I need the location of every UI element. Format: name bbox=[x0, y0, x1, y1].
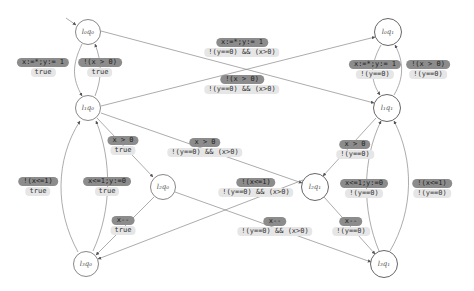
edge-guard: !(y==0) && (x>0) bbox=[237, 227, 312, 236]
edge-label: x--!(y==0) bbox=[332, 217, 370, 236]
edge-action: x > 0 bbox=[189, 138, 220, 147]
initial-edge bbox=[66, 18, 76, 25]
edge-guard: !(y==0) bbox=[356, 70, 394, 79]
edge-action: x:=*;y:= 1 bbox=[17, 58, 69, 67]
edge-action: x > 0 bbox=[107, 136, 138, 145]
state-l1q0[interactable]: l₁q₀ bbox=[75, 95, 101, 121]
edge-label: !(x > 0)!(y==0) && (x>0) bbox=[204, 75, 279, 94]
edge-label: x:=*;y:= 1true bbox=[17, 58, 69, 77]
edge-guard: !(y==0) bbox=[409, 70, 447, 79]
edge-label: x--!(y==0) && (x>0) bbox=[237, 217, 312, 236]
edge-label: x--true bbox=[111, 216, 136, 235]
edge-label: !(x<=1)!(y==0) bbox=[412, 179, 452, 198]
edge-action: !(x > 0) bbox=[78, 58, 122, 67]
edge-action: !(x > 0) bbox=[406, 60, 450, 69]
edge-guard: true bbox=[111, 146, 136, 155]
edge-label: x:=*;y:= 1!(y==0) bbox=[349, 60, 401, 79]
edge-label: !(x<=1)true bbox=[18, 177, 58, 196]
edge-action: x<=1;y:=0 bbox=[340, 179, 388, 188]
edge-action: x:=*;y:= 1 bbox=[216, 38, 268, 47]
edge-label: x<=1;y:=0true bbox=[83, 177, 131, 196]
state-l3q0[interactable]: l₃q₀ bbox=[73, 251, 99, 277]
edge-action: !(x > 0) bbox=[220, 75, 264, 84]
edge-guard: true bbox=[31, 68, 56, 77]
edge-guard: !(y==0) bbox=[336, 150, 374, 159]
edge-label: !(x > 0)!(y==0) bbox=[406, 60, 450, 79]
state-l3q1[interactable]: l₃q₁ bbox=[370, 250, 398, 278]
edge-guard: true bbox=[26, 187, 51, 196]
edge-action: x > 0 bbox=[339, 140, 370, 149]
state-l1q1[interactable]: l₁q₁ bbox=[373, 94, 401, 122]
edge-guard: !(y==0) bbox=[345, 189, 383, 198]
edge-label: x<=1;y:=0!(y==0) bbox=[340, 179, 388, 198]
edge-label: x > 0!(y==0) && (x>0) bbox=[167, 138, 242, 157]
edge-guard: true bbox=[88, 68, 113, 77]
edge-action: !(x<=1) bbox=[18, 177, 58, 186]
edge-action: !(x<=1) bbox=[412, 179, 452, 188]
edge-guard: !(y==0) && (x>0) bbox=[218, 188, 293, 197]
state-l2q1[interactable]: l₂q₁ bbox=[301, 173, 329, 201]
edge-action: x-- bbox=[264, 217, 287, 226]
edge-action: x-- bbox=[112, 216, 135, 225]
edge-action: x:=*;y:= 1 bbox=[349, 60, 401, 69]
edge-action: !(x<=1) bbox=[236, 178, 276, 187]
edge-l3q1-l1q1-b bbox=[390, 121, 409, 251]
state-l2q0[interactable]: l₂q₀ bbox=[150, 174, 176, 200]
edge-guard: !(y==0) && (x>0) bbox=[204, 48, 279, 57]
edge-guard: !(y==0) && (x>0) bbox=[204, 85, 279, 94]
edge-guard: !(y==0) bbox=[332, 227, 370, 236]
edge-label: !(x > 0)true bbox=[78, 58, 122, 77]
edge-guard: true bbox=[95, 187, 120, 196]
edge-guard: true bbox=[111, 226, 136, 235]
edge-guard: !(y==0) && (x>0) bbox=[167, 148, 242, 157]
edge-label: x > 0true bbox=[107, 136, 138, 155]
edge-action: x-- bbox=[340, 217, 363, 226]
edge-guard: !(y==0) bbox=[413, 189, 451, 198]
state-l0q0[interactable]: l₀q₀ bbox=[75, 19, 101, 45]
edge-action: x<=1;y:=0 bbox=[83, 177, 131, 186]
edge-label: !(x<=1)!(y==0) && (x>0) bbox=[218, 178, 293, 197]
state-l0q1[interactable]: l₀q₁ bbox=[374, 18, 402, 46]
edge-label: x:=*;y:= 1!(y==0) && (x>0) bbox=[204, 38, 279, 57]
edge-label: x > 0!(y==0) bbox=[336, 140, 374, 159]
edge-l3q0-l1q0 bbox=[61, 121, 80, 252]
